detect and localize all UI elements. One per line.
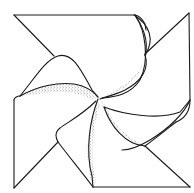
blade-top-right: [100, 13, 190, 100]
blade-bottom-left: [14, 96, 100, 188]
blade-bottom-right: [93, 100, 190, 187]
pinwheel-illustration: pinwheel line drawing: [0, 0, 194, 193]
blade-top-left: [14, 15, 135, 100]
